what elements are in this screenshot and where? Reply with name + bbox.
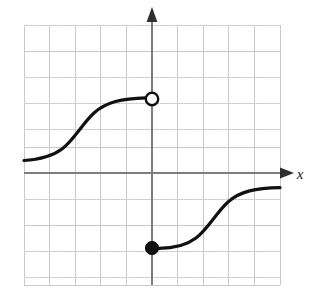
open-endpoint-circle <box>146 93 158 105</box>
closed-endpoint-dot <box>145 241 158 254</box>
x-axis-label: x <box>296 166 304 182</box>
graph-figure: x <box>0 0 315 293</box>
